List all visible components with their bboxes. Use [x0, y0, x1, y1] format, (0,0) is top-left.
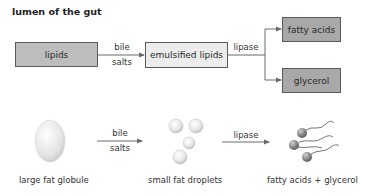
fatty-acids-box: fatty acids — [282, 17, 341, 42]
bile-label-bottom: bile — [102, 128, 138, 139]
emulsified-lipids-box: emulsified lipids — [145, 42, 228, 68]
caption-small-fat-droplets: small fat droplets — [148, 175, 222, 185]
fatty-acids-glycerol-icon — [298, 121, 339, 154]
salts-label: salts — [104, 57, 140, 68]
large-fat-globule-icon — [35, 120, 65, 162]
salts-label-bottom: salts — [102, 143, 138, 154]
lipids-box: lipids — [15, 42, 98, 67]
small-fat-droplets-icon — [169, 119, 203, 164]
caption-large-fat-globule: large fat globule — [19, 175, 89, 185]
glycerol-box: glycerol — [282, 68, 341, 93]
lipase-label: lipase — [229, 42, 263, 53]
caption-fatty-acids-glycerol: fatty acids + glycerol — [267, 175, 358, 185]
lipase-label-bottom: lipase — [228, 130, 264, 141]
bile-label: bile — [104, 42, 140, 53]
